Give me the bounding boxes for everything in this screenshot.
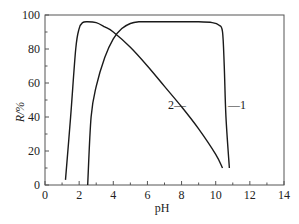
plot-frame (45, 15, 284, 185)
x-tick-label: 12 (244, 188, 256, 202)
x-tick-label: 14 (278, 188, 290, 202)
y-tick-label: 0 (34, 178, 40, 192)
x-tick-label: 8 (179, 188, 185, 202)
x-tick-label: 2 (76, 188, 82, 202)
y-tick-label: 20 (28, 144, 40, 158)
y-tick-label: 60 (28, 76, 40, 90)
y-axis-label: R/% (13, 102, 27, 124)
y-tick-label: 100 (22, 8, 40, 22)
axes (45, 15, 284, 185)
series-1-label: —1 (227, 98, 246, 112)
data-lines (65, 22, 229, 185)
ticks: 02468101214020406080100 (22, 8, 290, 202)
x-tick-label: 6 (144, 188, 150, 202)
series-2-label: 2— (168, 98, 187, 112)
x-tick-label: 0 (42, 188, 48, 202)
y-tick-label: 80 (28, 42, 40, 56)
y-tick-label: 40 (28, 110, 40, 124)
chart: 02468101214020406080100 R/% pH —1 2— (0, 0, 299, 224)
x-tick-label: 10 (210, 188, 222, 202)
series-1-line (88, 22, 230, 185)
x-axis-label: pH (155, 201, 170, 215)
x-tick-label: 4 (110, 188, 116, 202)
